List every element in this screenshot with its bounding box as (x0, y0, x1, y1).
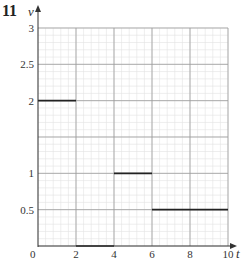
y-axis-arrow-icon (35, 5, 41, 12)
y-tick-label: 2 (29, 95, 35, 107)
y-tick-label: 2.5 (20, 58, 34, 70)
origin-label: 0 (30, 248, 36, 260)
major-grid (38, 28, 228, 246)
x-axis-label: t (236, 246, 240, 261)
x-tick-label: 8 (187, 248, 193, 260)
question-number: 11 (2, 2, 17, 19)
y-tick-label: 3 (29, 22, 35, 34)
y-axis-label: v (28, 4, 34, 19)
x-tick-label: 10 (223, 248, 235, 260)
y-tick-label: 1 (29, 167, 35, 179)
x-tick-label: 6 (149, 248, 155, 260)
y-tick-label: 0.5 (20, 204, 34, 216)
step-chart: 11 v t 0 2468100.5122.53 (0, 0, 242, 261)
x-tick-label: 2 (73, 248, 79, 260)
x-tick-label: 4 (111, 248, 117, 260)
